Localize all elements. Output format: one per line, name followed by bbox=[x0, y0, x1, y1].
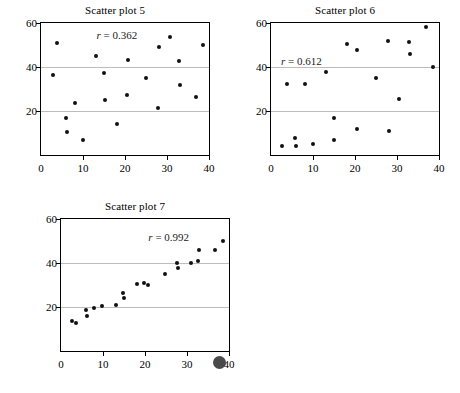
data-point bbox=[213, 248, 217, 252]
x-axis-tick-label: 30 bbox=[162, 162, 173, 174]
data-point bbox=[332, 138, 336, 142]
x-axis-tick-label: 0 bbox=[38, 162, 44, 174]
data-point bbox=[94, 54, 98, 58]
data-point bbox=[387, 129, 391, 133]
data-point bbox=[163, 272, 167, 276]
x-axis-tick bbox=[167, 155, 168, 160]
x-axis-tick bbox=[439, 155, 440, 160]
x-axis-tick bbox=[229, 351, 230, 356]
data-point bbox=[431, 65, 435, 69]
data-point bbox=[175, 261, 179, 265]
data-point bbox=[125, 93, 129, 97]
scatter-plot-5-frame: 204060010203040r = 0.362 bbox=[40, 22, 210, 156]
x-axis-tick-label: 0 bbox=[268, 162, 274, 174]
data-point bbox=[294, 144, 298, 148]
scatter-plot-5-title: Scatter plot 5 bbox=[0, 4, 230, 16]
data-point bbox=[197, 248, 201, 252]
data-point bbox=[85, 314, 89, 318]
gridline bbox=[271, 111, 439, 112]
gridline bbox=[41, 67, 209, 68]
x-axis-tick-label: 40 bbox=[434, 162, 445, 174]
x-axis-tick-label: 40 bbox=[204, 162, 215, 174]
data-point bbox=[177, 59, 181, 63]
data-point bbox=[64, 116, 68, 120]
gridline bbox=[271, 67, 439, 68]
x-axis-tick-label: 10 bbox=[98, 358, 109, 370]
x-axis-tick-label: 20 bbox=[140, 358, 151, 370]
data-point bbox=[345, 42, 349, 46]
data-point bbox=[189, 261, 193, 265]
y-axis-tick-label: 40 bbox=[46, 257, 57, 269]
data-point bbox=[303, 82, 307, 86]
x-axis-tick bbox=[355, 155, 356, 160]
data-point bbox=[135, 282, 139, 286]
scatter-plot-figure: Scatter plot 5 204060010203040r = 0.362 … bbox=[0, 0, 460, 393]
data-point bbox=[121, 291, 125, 295]
data-point bbox=[408, 52, 412, 56]
data-point bbox=[386, 39, 390, 43]
correlation-annotation: r = 0.992 bbox=[148, 231, 189, 243]
data-point bbox=[201, 43, 205, 47]
x-axis-tick bbox=[187, 351, 188, 356]
x-axis-tick-label: 0 bbox=[58, 358, 64, 370]
y-axis-tick-label: 20 bbox=[46, 301, 57, 313]
data-point bbox=[103, 98, 107, 102]
scatter-plot-7-frame: 204060010203040r = 0.992 bbox=[60, 218, 230, 352]
data-point bbox=[156, 106, 160, 110]
x-axis-tick bbox=[125, 155, 126, 160]
x-axis-tick bbox=[103, 351, 104, 356]
data-point bbox=[311, 142, 315, 146]
data-point bbox=[81, 138, 85, 142]
y-axis-tick-label: 20 bbox=[256, 105, 267, 117]
stray-dot-marker bbox=[213, 356, 226, 369]
correlation-value: = 0.362 bbox=[101, 29, 137, 41]
data-point bbox=[73, 101, 77, 105]
data-point bbox=[293, 136, 297, 140]
data-point bbox=[424, 25, 428, 29]
scatter-plot-6-panel: Scatter plot 6 204060010203040r = 0.612 bbox=[230, 0, 460, 196]
correlation-value: = 0.992 bbox=[153, 231, 189, 243]
x-axis-tick bbox=[145, 351, 146, 356]
x-axis-tick-label: 20 bbox=[350, 162, 361, 174]
data-point bbox=[146, 283, 150, 287]
data-point bbox=[65, 130, 69, 134]
data-point bbox=[176, 266, 180, 270]
data-point bbox=[114, 303, 118, 307]
data-point bbox=[74, 321, 78, 325]
data-point bbox=[178, 83, 182, 87]
x-axis-tick-label: 30 bbox=[392, 162, 403, 174]
scatter-plot-6-frame: 204060010203040r = 0.612 bbox=[270, 22, 440, 156]
x-axis-tick bbox=[313, 155, 314, 160]
data-point bbox=[168, 35, 172, 39]
scatter-plot-5-panel: Scatter plot 5 204060010203040r = 0.362 bbox=[0, 0, 230, 196]
data-point bbox=[55, 41, 59, 45]
correlation-annotation: r = 0.612 bbox=[281, 55, 322, 67]
data-point bbox=[157, 45, 161, 49]
x-axis-tick bbox=[209, 155, 210, 160]
data-point bbox=[407, 40, 411, 44]
data-point bbox=[324, 70, 328, 74]
gridline bbox=[41, 111, 209, 112]
correlation-value: = 0.612 bbox=[285, 55, 321, 67]
data-point bbox=[397, 97, 401, 101]
gridline bbox=[61, 263, 229, 264]
y-axis-tick-label: 60 bbox=[46, 213, 57, 225]
data-point bbox=[122, 296, 126, 300]
data-point bbox=[194, 95, 198, 99]
data-point bbox=[355, 48, 359, 52]
data-point bbox=[355, 127, 359, 131]
x-axis-tick bbox=[397, 155, 398, 160]
data-point bbox=[115, 122, 119, 126]
x-axis-tick-label: 20 bbox=[120, 162, 131, 174]
y-axis-tick-label: 60 bbox=[256, 17, 267, 29]
x-axis-tick-label: 10 bbox=[78, 162, 89, 174]
data-point bbox=[332, 116, 336, 120]
data-point bbox=[126, 58, 130, 62]
y-axis-tick-label: 40 bbox=[26, 61, 37, 73]
data-point bbox=[51, 73, 55, 77]
y-axis-tick-label: 20 bbox=[26, 105, 37, 117]
x-axis-tick-label: 30 bbox=[182, 358, 193, 370]
data-point bbox=[102, 71, 106, 75]
scatter-plot-6-title: Scatter plot 6 bbox=[230, 4, 460, 16]
x-axis-tick bbox=[83, 155, 84, 160]
